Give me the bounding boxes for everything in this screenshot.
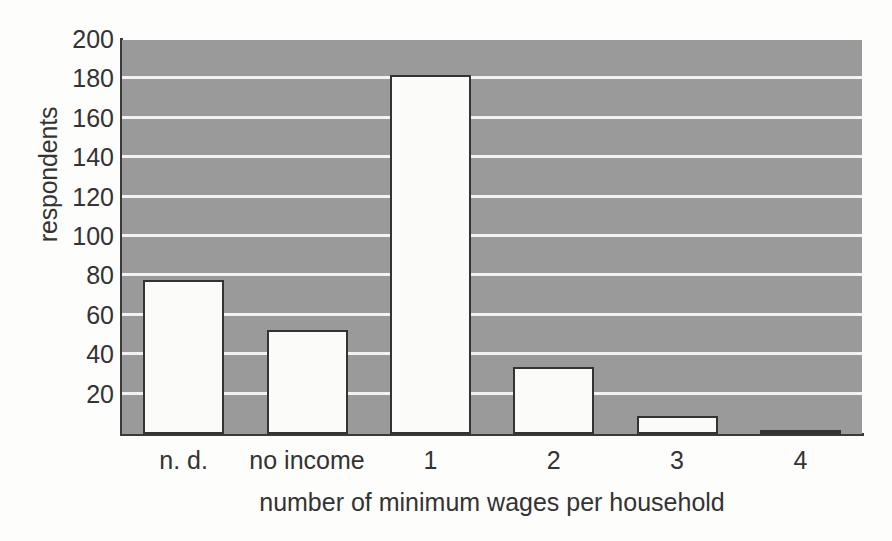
y-tick-label: 60: [52, 303, 114, 328]
x-tick-label: n. d.: [159, 445, 208, 475]
gridline: [122, 195, 862, 198]
bar-4: [760, 430, 841, 434]
y-tick-label: 80: [52, 263, 114, 288]
x-tick-label: 1: [423, 445, 437, 475]
bar-no-income: [267, 330, 348, 434]
gridline: [122, 352, 862, 355]
y-tick-label: 160: [52, 106, 114, 131]
chart-figure: respondents 20406080100120140160180200 n…: [0, 0, 892, 541]
gridline: [122, 76, 862, 79]
y-axis-ticks: 20406080100120140160180200: [52, 28, 114, 448]
y-tick-label: 100: [52, 224, 114, 249]
gridline: [122, 155, 862, 158]
bar-3: [637, 416, 718, 434]
x-axis-title: number of minimum wages per household: [122, 488, 862, 517]
bar-1: [390, 75, 471, 434]
gridline: [122, 313, 862, 316]
y-tick-label: 120: [52, 185, 114, 210]
bar-n-d-: [143, 280, 224, 434]
y-tick-label: 20: [52, 382, 114, 407]
gridline: [122, 392, 862, 395]
y-tick-label: 40: [52, 342, 114, 367]
y-tick-label: 180: [52, 66, 114, 91]
x-tick-label: 4: [793, 445, 807, 475]
gridline: [122, 273, 862, 276]
gridline: [122, 116, 862, 119]
y-tick-label: 200: [52, 27, 114, 52]
x-axis-ticks: n. d.no income1234: [122, 445, 862, 479]
plot-area: [122, 40, 862, 434]
x-tick-label: 2: [547, 445, 561, 475]
y-tick-label: 140: [52, 145, 114, 170]
gridline: [122, 234, 862, 237]
x-tick-label: no income: [249, 445, 364, 475]
bar-2: [513, 367, 594, 434]
x-tick-label: 3: [670, 445, 684, 475]
